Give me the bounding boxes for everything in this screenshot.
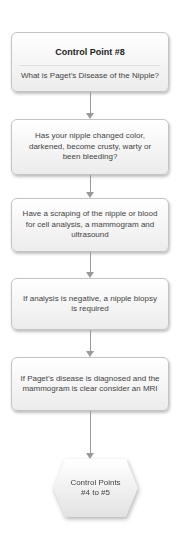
control-point-question: What is Paget’s Disease of the Nipple? — [21, 65, 159, 82]
step-box-nipple-changes: Has your nipple changed color, darkened,… — [11, 119, 169, 175]
control-point-title: Control Point #8 — [20, 43, 160, 65]
end-label-line1: Control Points — [70, 478, 120, 489]
connector-line — [90, 411, 91, 453]
step-box-biopsy: If analysis is negative, a nipple biopsy… — [11, 278, 169, 330]
control-points-4-to-5-hexagon: Control Points #4 to #5 — [53, 459, 138, 517]
connector-line — [90, 330, 91, 351]
connector-line — [90, 175, 91, 192]
step-text: Have a scraping of the nipple or blood f… — [20, 209, 160, 241]
step-box-mri: If Paget’s disease is diagnosed and the … — [11, 357, 169, 411]
connector-line — [90, 252, 91, 272]
connector-line — [90, 92, 91, 113]
step-text: If analysis is negative, a nipple biopsy… — [20, 294, 160, 315]
end-label-line2: #4 to #5 — [81, 488, 110, 499]
step-text: Has your nipple changed color, darkened,… — [20, 131, 160, 163]
step-box-scraping-analysis: Have a scraping of the nipple or blood f… — [11, 198, 169, 252]
control-point-8-box: Control Point #8 What is Paget’s Disease… — [11, 32, 169, 92]
cropped-header-remnant — [0, 0, 184, 4]
step-text: If Paget’s disease is diagnosed and the … — [20, 374, 160, 395]
